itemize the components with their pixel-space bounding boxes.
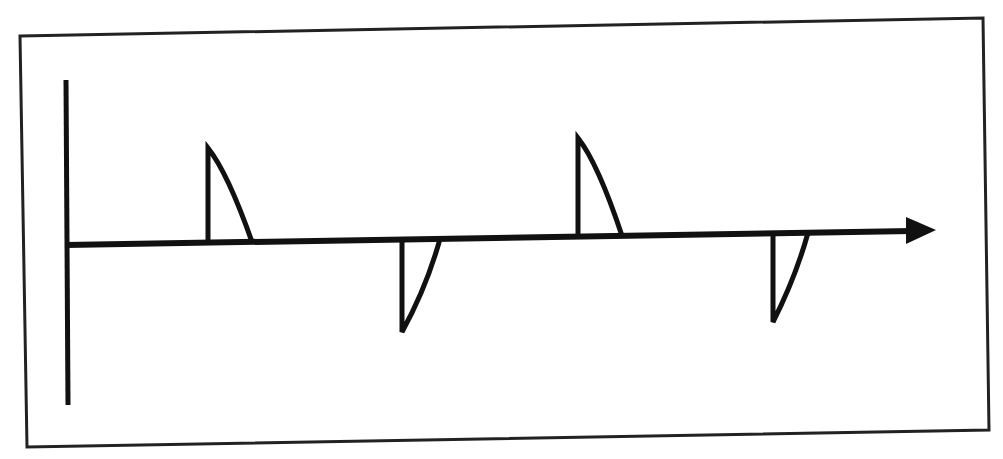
fin-up-icon [578,138,622,237]
sawtooth-timeline-diagram [0,0,1003,459]
arrowhead-right-icon [906,217,936,244]
timeline-axis [66,231,912,245]
fin-down-icon [773,233,808,322]
fin-down-icon [402,239,440,332]
fin-up-icon [208,148,252,243]
